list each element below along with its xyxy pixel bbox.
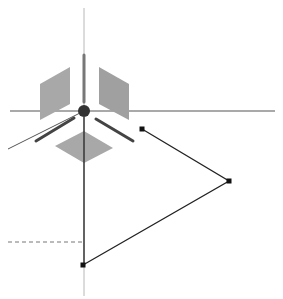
gizmo-center-sphere-icon[interactable] (78, 105, 90, 117)
control-point-2[interactable] (227, 179, 232, 184)
axes-group (8, 8, 275, 296)
x-axis-handle[interactable] (36, 118, 74, 141)
control-point-3[interactable] (81, 263, 86, 268)
control-point-1[interactable] (140, 127, 145, 132)
z-axis-handle[interactable] (96, 119, 133, 141)
scene-canvas[interactable] (0, 0, 283, 299)
3d-viewport[interactable] (0, 0, 283, 299)
plane-handle-right[interactable] (99, 67, 129, 120)
plane-handle-left[interactable] (40, 67, 70, 120)
